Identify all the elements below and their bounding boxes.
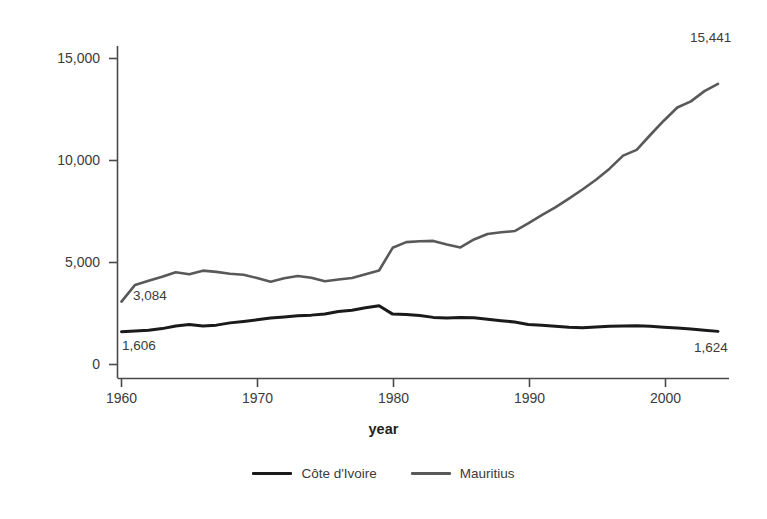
series-line-cote-divoire [122, 306, 719, 332]
chart-legend: Côte d'Ivoire Mauritius [0, 466, 767, 481]
annotation-cote-divoire-end: 1,624 [694, 340, 728, 355]
legend-swatch-mauritius [411, 472, 451, 475]
legend-item-cote-divoire[interactable]: Côte d'Ivoire [252, 466, 376, 481]
x-tick-label-1960: 1960 [82, 390, 162, 406]
y-axis-ticks [109, 59, 118, 365]
x-tick-label-2000: 2000 [626, 390, 706, 406]
legend-label-mauritius: Mauritius [460, 466, 515, 481]
y-tick-label-15000: 15,000 [20, 50, 100, 66]
x-tick-label-1980: 1980 [354, 390, 434, 406]
x-axis-title: year [0, 421, 767, 437]
y-tick-label-5000: 5,000 [20, 254, 100, 270]
legend-swatch-cote-divoire [252, 472, 292, 475]
y-tick-label-0: 0 [20, 356, 100, 372]
x-axis-ticks [122, 379, 666, 388]
annotation-mauritius-end: 15,441 [690, 30, 731, 45]
plot-area [0, 0, 767, 519]
annotation-mauritius-start: 3,084 [133, 288, 167, 303]
income-per-capita-line-chart: income per capita year 15,000 10,000 5,0… [0, 0, 767, 519]
legend-label-cote-divoire: Côte d'Ivoire [301, 466, 376, 481]
y-tick-label-10000: 10,000 [20, 152, 100, 168]
legend-item-mauritius[interactable]: Mauritius [411, 466, 515, 481]
x-tick-label-1970: 1970 [218, 390, 298, 406]
x-tick-label-1990: 1990 [490, 390, 570, 406]
annotation-cote-divoire-start: 1,606 [122, 338, 156, 353]
series-line-mauritius [122, 84, 719, 302]
